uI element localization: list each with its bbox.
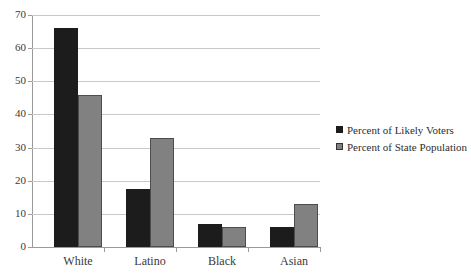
gray-square-icon: [336, 143, 343, 150]
bar-white-state-population: [78, 95, 102, 247]
bar-latino-state-population: [150, 138, 174, 247]
bar-group-white: [54, 15, 102, 247]
y-axis-label-20: 20: [2, 175, 26, 186]
x-tick-4: [320, 247, 321, 252]
y-axis-label-70: 70: [2, 9, 26, 20]
bar-black-state-population: [222, 227, 246, 247]
x-axis-label-latino: Latino: [110, 254, 190, 268]
chart-legend: Percent of Likely Voters Percent of Stat…: [336, 122, 471, 156]
legend-item-state-population: Percent of State Population: [336, 139, 471, 154]
y-axis-label-50: 50: [2, 75, 26, 86]
bar-group-latino: [126, 15, 174, 247]
bar-white-likely-voters: [54, 28, 78, 247]
x-tick-2: [176, 247, 177, 252]
bar-asian-state-population: [294, 204, 318, 247]
bar-asian-likely-voters: [270, 227, 294, 247]
legend-item-likely-voters: Percent of Likely Voters: [336, 122, 471, 137]
bar-latino-likely-voters: [126, 189, 150, 247]
x-tick-1: [104, 247, 105, 252]
legend-label-likely-voters: Percent of Likely Voters: [347, 124, 454, 136]
bar-chart: 70 60 50 40 30 20 10 0: [0, 0, 471, 276]
x-tick-3: [248, 247, 249, 252]
x-axis-label-black: Black: [182, 254, 262, 268]
y-axis-labels: 70 60 50 40 30 20 10 0: [0, 0, 26, 276]
y-axis-label-40: 40: [2, 108, 26, 119]
x-axis-label-asian: Asian: [254, 254, 334, 268]
bar-group-black: [198, 15, 246, 247]
plot-area: [32, 15, 320, 247]
bar-black-likely-voters: [198, 224, 222, 247]
dark-square-icon: [336, 126, 343, 133]
y-axis-label-60: 60: [2, 42, 26, 53]
x-axis-label-white: White: [38, 254, 118, 268]
y-axis-label-10: 10: [2, 208, 26, 219]
y-axis-label-30: 30: [2, 142, 26, 153]
legend-label-state-population: Percent of State Population: [347, 141, 467, 153]
y-axis-label-0: 0: [2, 241, 26, 252]
bar-group-asian: [270, 15, 318, 247]
